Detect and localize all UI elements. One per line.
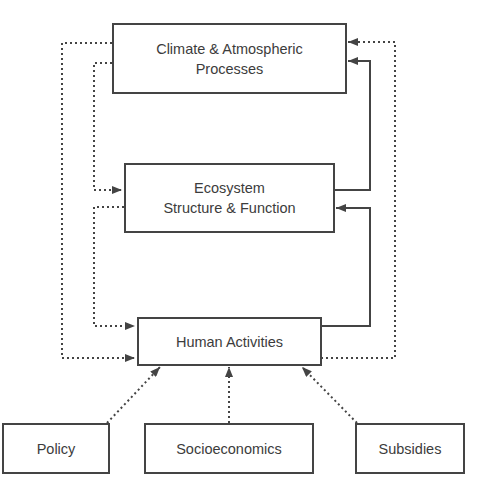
node-climate-atmospheric-processes: Climate & Atmospheric Processes: [112, 23, 347, 94]
node-label: Human Activities: [176, 332, 283, 352]
edge-policy-to-human: [107, 367, 160, 423]
node-label: Subsidies: [379, 439, 442, 459]
node-label-line2: Processes: [156, 59, 303, 79]
node-human-activities: Human Activities: [137, 317, 322, 366]
node-label-line2: Structure & Function: [163, 198, 295, 218]
node-policy: Policy: [2, 423, 110, 474]
node-label: Socioeconomics: [176, 439, 282, 459]
node-label-line1: Climate & Atmospheric: [156, 39, 303, 59]
node-ecosystem-structure-function: Ecosystem Structure & Function: [124, 163, 335, 233]
edge-subsidies-to-human: [302, 367, 357, 423]
node-socioeconomics: Socioeconomics: [144, 423, 314, 474]
node-label-line1: Ecosystem: [163, 178, 295, 198]
node-label: Policy: [37, 439, 76, 459]
node-subsidies: Subsidies: [355, 423, 465, 474]
